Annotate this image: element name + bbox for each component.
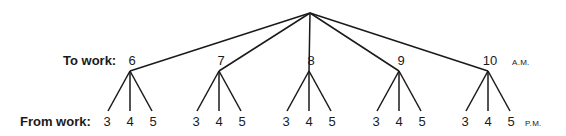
am-suffix: A.M.	[512, 58, 530, 67]
tree-edge	[310, 13, 399, 71]
from-work-time-4: 4	[484, 114, 491, 129]
to-work-time-8: 8	[307, 53, 314, 68]
tree-edge	[287, 71, 309, 111]
to-work-time-7: 7	[217, 53, 224, 68]
from-work-time-5: 5	[328, 114, 335, 129]
from-work-time-4: 4	[395, 114, 402, 129]
from-work-time-5: 5	[238, 114, 245, 129]
from-work-time-3: 3	[192, 114, 199, 129]
tree-edge	[219, 13, 310, 71]
to-work-time-9: 9	[397, 53, 404, 68]
tree-edge	[197, 71, 219, 111]
tree-edge	[399, 71, 421, 111]
from-work-time-4: 4	[126, 114, 133, 129]
pm-suffix: P.M.	[525, 119, 542, 128]
from-work-time-3: 3	[461, 114, 468, 129]
from-work-label: From work:	[20, 114, 91, 129]
from-work-time-5: 5	[507, 114, 514, 129]
tree-edge	[108, 71, 130, 111]
tree-edge	[377, 71, 399, 111]
tree-edge	[219, 71, 241, 111]
from-work-time-3: 3	[372, 114, 379, 129]
from-work-time-4: 4	[305, 114, 312, 129]
from-work-time-3: 3	[282, 114, 289, 129]
to-work-time-10: 10	[483, 53, 497, 68]
from-work-time-4: 4	[215, 114, 222, 129]
from-work-time-5: 5	[149, 114, 156, 129]
to-work-time-6: 6	[128, 53, 135, 68]
tree-edge	[130, 71, 152, 111]
from-work-time-5: 5	[418, 114, 425, 129]
tree-edge	[466, 71, 488, 111]
tree-edge	[309, 71, 331, 111]
from-work-time-3: 3	[103, 114, 110, 129]
tree-edge	[488, 71, 510, 111]
to-work-label: To work:	[63, 53, 116, 68]
